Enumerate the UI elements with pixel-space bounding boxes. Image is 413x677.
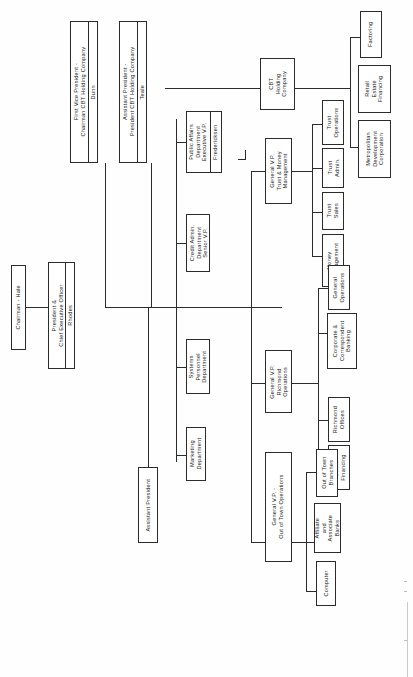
- node-gvp-out-of-town-label: General V.P. - Out of Town Operations: [272, 475, 285, 539]
- connector-chairman-to-president: [26, 307, 48, 308]
- connector-money-management: [312, 256, 322, 257]
- node-out-of-town-branches[interactable]: Out of Town Branches: [316, 449, 338, 497]
- node-public-affairs-title-cell: Public Affairs Department Executive V.P.: [187, 112, 210, 172]
- node-gvp-trust-money[interactable]: General V.P. Trust & Money Management: [265, 138, 292, 204]
- node-general-operations[interactable]: General Operations: [328, 265, 350, 310]
- connector-fredericksen-elbow-v: [245, 150, 246, 159]
- node-trust-operations-label: Trust Operations: [326, 108, 339, 138]
- node-systems-personnel-label: Systems Personnel Department: [188, 351, 208, 383]
- node-computer-label: Computer: [323, 570, 330, 597]
- connector-staff-credit-admin: [176, 243, 186, 244]
- connector-out-of-town-children-spine: [306, 472, 307, 591]
- connector-assistant-president: [148, 307, 149, 467]
- node-trust-admin-label: Trust Admin.: [326, 159, 339, 178]
- scan-tick-mark-3: [404, 640, 407, 641]
- node-president-ceo-title: President & Chief Executive Officer: [50, 284, 63, 347]
- connector-cbt-subsidiaries-spine: [350, 37, 351, 147]
- node-public-affairs-person: Fredericksen: [213, 124, 220, 159]
- node-public-affairs[interactable]: Public Affairs Department Executive V.P.…: [186, 111, 222, 173]
- connector-staff-spine: [176, 119, 177, 462]
- connector-out-of-town-branches: [306, 472, 316, 473]
- connector-richmond-offices: [318, 420, 328, 421]
- connector-cbt-to-factoring: [350, 37, 360, 38]
- node-metropolitan-development[interactable]: Metropolitan Development Corporation: [358, 120, 391, 178]
- node-factoring-label: Factoring: [368, 22, 375, 48]
- connector-staff-systems: [176, 367, 186, 368]
- node-factoring[interactable]: Factoring: [360, 11, 382, 58]
- connector-line-group-spine: [251, 171, 252, 542]
- node-cbt-holding-label: CBT Holding Company: [268, 71, 288, 97]
- connector-cbt-holding-out: [295, 88, 350, 89]
- connector-trust-sales: [312, 212, 322, 213]
- node-retail-estate-financing-label: Retail Estate Financing: [365, 76, 385, 103]
- node-assistant-president-label: Assistant President: [145, 479, 152, 532]
- connector-fredericksen-elbow-h: [238, 159, 246, 160]
- node-gvp-richmond-label: General V.P. Richmond Operations: [269, 365, 289, 399]
- node-assistant-president-cbt-title: Assistant President - President CBT Hold…: [122, 47, 135, 137]
- connector-riser-assistant-president-cbt: [151, 163, 152, 308]
- node-cbt-holding[interactable]: CBT Holding Company: [260, 58, 295, 110]
- connector-computer: [306, 591, 316, 592]
- node-assistant-president-cbt-person: Teale: [139, 85, 146, 100]
- node-metropolitan-development-label: Metropolitan Development Corporation: [365, 131, 385, 167]
- connector-out-of-town-out: [292, 542, 306, 543]
- node-richmond-offices[interactable]: Richmond Offices: [328, 397, 350, 442]
- org-chart-page: Chairman - Hale President & Chief Execut…: [0, 0, 413, 677]
- node-assistant-president[interactable]: Assistant President: [138, 467, 158, 543]
- node-public-affairs-person-cell: Fredericksen: [210, 112, 221, 172]
- node-trust-sales-label: Trust Sales: [326, 203, 339, 218]
- connector-trust-children-spine: [312, 124, 313, 256]
- connector-line-group-to-richmond: [251, 383, 265, 384]
- node-credit-admin-label: Credit Admin. Department Senior V.P.: [188, 225, 208, 262]
- node-president-ceo-person-cell: Rhodes: [65, 263, 74, 368]
- node-first-vice-president-title-cell: First Vice President - Chairman CBT Hold…: [71, 22, 88, 162]
- connector-line-group-to-trust-money: [251, 171, 265, 172]
- connector-staff-marketing: [176, 455, 186, 456]
- node-credit-admin[interactable]: Credit Admin. Department Senior V.P.: [186, 214, 210, 272]
- node-assistant-president-cbt-title-cell: Assistant President - President CBT Hold…: [120, 22, 137, 162]
- node-first-vice-president[interactable]: First Vice President - Chairman CBT Hold…: [70, 21, 98, 163]
- connector-riser-first-vice-president: [105, 163, 106, 308]
- scan-tick-mark-2: [404, 591, 407, 592]
- scan-edge-line: [407, 602, 408, 677]
- node-affiliate-associate-banks[interactable]: Affiliate and Associate Banks: [314, 503, 341, 553]
- connector-staff-public-affairs: [176, 142, 186, 143]
- node-gvp-trust-money-label: General V.P. Trust & Money Management: [269, 151, 289, 190]
- node-assistant-president-cbt-person-cell: Teale: [137, 22, 146, 162]
- node-general-operations-label: General Operations: [332, 273, 345, 303]
- node-corporate-correspondent-label: Corporate & Correspondent Banking: [332, 321, 352, 361]
- node-president-ceo[interactable]: President & Chief Executive Officer Rhod…: [48, 262, 75, 369]
- connector-richmond-out: [292, 383, 318, 384]
- node-trust-admin[interactable]: Trust Admin.: [322, 148, 344, 188]
- node-assistant-president-cbt[interactable]: Assistant President - President CBT Hold…: [119, 21, 147, 163]
- node-corporate-correspondent[interactable]: Corporate & Correspondent Banking: [327, 313, 357, 369]
- scan-tick-mark-1: [404, 581, 407, 582]
- node-chairman[interactable]: Chairman - Hale: [11, 265, 26, 350]
- connector-trust-money-out: [292, 171, 312, 172]
- node-first-vice-president-title: First Vice President - Chairman CBT Hold…: [73, 47, 86, 137]
- node-gvp-out-of-town[interactable]: General V.P. - Out of Town Operations: [265, 452, 292, 562]
- node-systems-personnel[interactable]: Systems Personnel Department: [186, 339, 210, 394]
- node-trust-operations[interactable]: Trust Operations: [322, 100, 344, 145]
- node-chairman-label: Chairman - Hale: [15, 285, 22, 329]
- node-richmond-offices-label: Richmond Offices: [332, 406, 345, 433]
- node-affiliate-associate-banks-label: Affiliate and Associate Banks: [314, 515, 340, 542]
- connector-line-group-to-out-of-town: [251, 542, 265, 543]
- node-marketing[interactable]: Marketing Department: [186, 427, 206, 481]
- connector-richmond-children-spine: [318, 288, 319, 465]
- connector-president-trunk: [105, 307, 282, 308]
- node-public-affairs-title: Public Affairs Department Executive V.P.: [189, 123, 209, 162]
- node-first-vice-president-person: Dunn: [90, 85, 97, 99]
- node-computer[interactable]: Computer: [316, 561, 336, 606]
- connector-cbt-holding-feed: [165, 88, 260, 89]
- connector-trust-operations: [312, 124, 322, 125]
- node-president-ceo-person: Rhodes: [67, 305, 74, 326]
- node-gvp-richmond[interactable]: General V.P. Richmond Operations: [265, 350, 292, 413]
- node-out-of-town-branches-label: Out of Town Branches: [320, 457, 333, 490]
- node-trust-sales[interactable]: Trust Sales: [322, 192, 344, 230]
- node-marketing-label: Marketing Department: [189, 438, 202, 470]
- connector-general-operations: [318, 288, 328, 289]
- node-retail-estate-financing[interactable]: Retail Estate Financing: [358, 65, 391, 113]
- node-president-ceo-title-cell: President & Chief Executive Officer: [49, 263, 65, 368]
- node-first-vice-president-person-cell: Dunn: [88, 22, 97, 162]
